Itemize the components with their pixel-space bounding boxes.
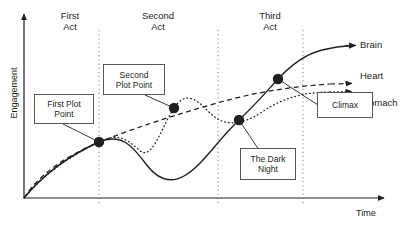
act-label-second-line1: Second bbox=[128, 10, 188, 21]
callout-second-plot-point-text: Second Plot Point bbox=[116, 70, 152, 90]
act-label-third: Third Act bbox=[242, 10, 298, 32]
x-axis-title: Time bbox=[356, 208, 376, 218]
callout-first-plot-point[interactable]: First Plot Point bbox=[34, 94, 94, 124]
callout-dark-night-text: The Dark Night bbox=[251, 154, 286, 174]
leader-climax bbox=[278, 79, 318, 105]
leader-dark-night bbox=[239, 120, 259, 150]
series-label-heart-true: Heart bbox=[360, 70, 383, 81]
marker-climax[interactable] bbox=[273, 74, 283, 84]
act-label-second: Second Act bbox=[128, 10, 188, 32]
marker-second-plot-point[interactable] bbox=[169, 103, 179, 113]
callout-climax-text: Climax bbox=[332, 100, 358, 110]
callout-second-plot-point[interactable]: Second Plot Point bbox=[103, 64, 165, 95]
act-label-second-line2: Act bbox=[128, 21, 188, 32]
marker-first-plot-point[interactable] bbox=[94, 137, 104, 147]
callout-climax[interactable]: Climax bbox=[317, 92, 373, 118]
story-structure-chart: Engagement Time First Act Second Act Thi… bbox=[0, 0, 413, 228]
leader-first-plot-point bbox=[63, 124, 99, 142]
series-label-brain: Brain bbox=[360, 39, 382, 50]
act-label-third-line2: Act bbox=[242, 21, 298, 32]
series-arrow-stomach bbox=[330, 83, 352, 84]
act-label-third-line1: Third bbox=[242, 10, 298, 21]
act-label-first-line2: Act bbox=[42, 21, 98, 32]
callout-first-plot-point-text: First Plot Point bbox=[47, 99, 81, 119]
act-label-first-line1: First bbox=[42, 10, 98, 21]
marker-dark-night[interactable] bbox=[234, 115, 244, 125]
y-axis-title: Engagement bbox=[9, 58, 19, 128]
callout-dark-night[interactable]: The Dark Night bbox=[240, 148, 296, 180]
act-label-first: First Act bbox=[42, 10, 98, 32]
